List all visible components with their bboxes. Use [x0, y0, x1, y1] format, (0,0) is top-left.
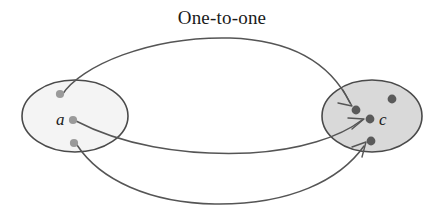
element-dot-codomain-dot-upper-left	[352, 106, 361, 115]
element-dot-codomain-dot-lower	[367, 137, 376, 146]
element-label-a: a	[56, 110, 65, 129]
element-dot-codomain-dot-upper-right	[388, 95, 397, 104]
element-label-c: c	[379, 110, 387, 129]
diagram-canvas: One-to-one ac	[0, 0, 443, 209]
element-dot-domain-dot-bottom	[70, 139, 78, 147]
diagram-title: One-to-one	[178, 7, 267, 28]
element-dot-codomain-dot-center	[366, 115, 375, 124]
one-to-one-diagram: One-to-one ac	[0, 0, 443, 209]
element-dot-domain-dot-middle	[69, 116, 77, 124]
element-dot-domain-dot-top	[56, 90, 64, 98]
